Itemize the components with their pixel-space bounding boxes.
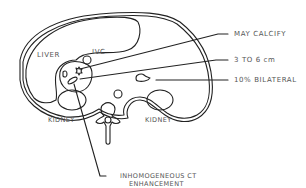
label-kidney-right: KIDNEY xyxy=(145,116,172,124)
callout-may-calcify: MAY CALCIFY xyxy=(234,30,286,38)
mass-oblong-icon xyxy=(68,77,77,84)
spinal-canal-shape xyxy=(105,117,111,123)
callout-size: 3 TO 6 cm xyxy=(234,56,275,64)
leader-enhancement xyxy=(74,84,106,176)
ct-cross-section-diagram xyxy=(0,0,306,188)
label-kidney-left: KIDNEY xyxy=(48,116,75,124)
label-ivc: IVC xyxy=(92,48,106,56)
callout-enhancement-line1: INHOMOGENEOUS CT xyxy=(120,172,197,180)
label-liver: LIVER xyxy=(37,51,60,59)
calcification-icon xyxy=(63,71,67,77)
callout-bilateral: 10% BILATERAL xyxy=(234,76,297,84)
aorta-shape xyxy=(114,90,122,98)
contralateral-adrenal-shape xyxy=(136,74,150,81)
kidney-left-shape xyxy=(58,90,86,110)
callout-enhancement-line2: ENHANCEMENT xyxy=(129,180,184,188)
